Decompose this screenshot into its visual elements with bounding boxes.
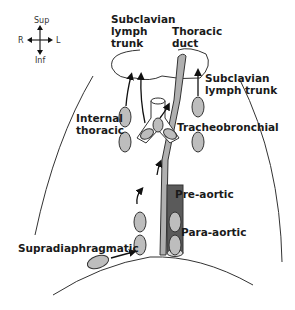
label-subclavian-right-1: Subclavian [111,13,175,25]
label-subclavian-left-2: lymph trunk [205,84,278,96]
label-subclavian-left-1: Subclavian [205,72,269,84]
diaphragm-curve [53,257,253,295]
node-para-aortic-left-1 [134,212,146,232]
node-para-aortic-right-2 [169,235,181,255]
node-tracheobronchial-2 [192,132,204,152]
compass-sup: Sup [34,16,49,25]
label-subclavian-right-2: lymph [111,25,147,37]
label-internal-thoracic-1: Internal [76,112,123,124]
arrow-pre-aortic [157,163,160,175]
label-thoracic-duct-1: Thoracic [172,25,222,37]
node-tracheobronchial-1 [192,97,204,117]
node-para-aortic-right-1 [169,212,181,232]
arrow-para-aortic [137,190,141,204]
label-subclavian-right-3: trunk [111,37,144,49]
arrow-tracheal [141,76,145,123]
compass-left: L [56,36,61,45]
label-thoracic-duct-2: duct [172,37,198,49]
compass-right: R [18,36,24,45]
neck-venous-loop [112,49,209,80]
arrow-up-icon [37,25,43,30]
compass-rose: Sup Inf R L [18,16,61,65]
arrow-internal-thoracic [126,76,131,106]
arrow-left-icon [27,37,32,43]
label-para-aortic: Para-aortic [181,226,246,238]
chest-wall-left [35,76,93,235]
label-tracheobronchial: Tracheobronchial [177,121,279,133]
arrow-right-icon [48,37,53,43]
label-pre-aortic: Pre-aortic [175,188,234,200]
compass-inf: Inf [35,56,45,65]
label-supradiaphragmatic: Supradiaphragmatic [18,242,139,254]
thoracic-lymph-drainage-diagram: Sup Inf R L Subclavian lymph trunk [0,0,295,310]
label-internal-thoracic-2: thoracic [76,124,124,136]
arrow-down-icon [37,50,43,55]
